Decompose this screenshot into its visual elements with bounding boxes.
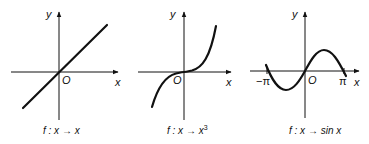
caption-identity: f : x → x	[43, 126, 80, 136]
x-axis-label: x	[226, 77, 232, 88]
curve-identity	[23, 25, 107, 108]
curve-sine	[266, 50, 346, 90]
caption-sine: f : x → sin x	[289, 126, 341, 136]
panel-sine	[250, 12, 359, 118]
exponent: 3	[204, 124, 208, 131]
panel-cube	[138, 12, 231, 120]
x-axis-label: x	[115, 77, 121, 88]
origin-label: O	[62, 75, 71, 86]
origin-label: O	[173, 75, 182, 86]
neg-pi-label: −π	[256, 76, 270, 87]
origin-label: O	[308, 75, 317, 86]
graphs-canvas	[0, 0, 369, 144]
panel-identity	[11, 12, 118, 120]
y-axis-label: y	[46, 9, 52, 20]
caption-cube: f : x → x3	[167, 126, 208, 136]
y-axis-label: y	[170, 9, 176, 20]
pi-label: π	[339, 76, 347, 87]
x-axis-label: x	[354, 77, 360, 88]
y-axis-label: y	[292, 9, 298, 20]
